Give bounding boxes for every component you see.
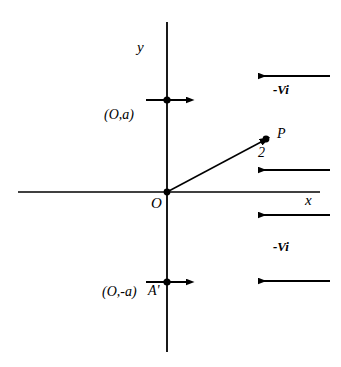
coordinate-diagram: y x O (O,a) (O,-a) A' P 2 -Vi -Vi — [0, 0, 341, 367]
y-axis-label: y — [137, 40, 144, 55]
vector-magnitude-label: 2 — [258, 146, 265, 160]
figure-canvas — [0, 0, 341, 367]
flow-label-top: -Vi — [273, 83, 289, 96]
point-a-prime-name: A' — [148, 284, 160, 298]
point-p-label: P — [277, 127, 286, 141]
marker-point-a — [163, 96, 170, 103]
flow-label-bottom: -Vi — [273, 240, 289, 253]
marker-point-a-prime — [163, 278, 170, 285]
marker-point-p — [263, 136, 270, 143]
origin-label: O — [151, 196, 162, 211]
x-axis-label: x — [305, 193, 312, 208]
marker-origin — [164, 189, 171, 196]
point-a-label: (O,a) — [104, 108, 134, 122]
point-a-prime-label: (O,-a) — [102, 285, 137, 299]
position-vector — [167, 142, 261, 192]
